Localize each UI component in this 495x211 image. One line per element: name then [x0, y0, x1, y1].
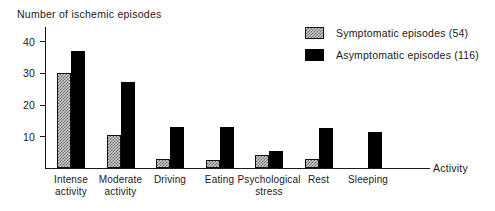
y-axis-line — [45, 27, 46, 169]
solid-black-swatch-icon — [305, 49, 324, 61]
chart-legend: Symptomatic episodes (54) Asymptomatic e… — [305, 24, 479, 68]
bar — [206, 160, 220, 168]
y-axis-tick-label: 30 — [23, 67, 35, 79]
checkered-swatch-icon — [305, 27, 324, 39]
y-axis-tick-label: 40 — [23, 35, 35, 47]
category-label-line: activity — [86, 186, 156, 198]
legend-item-label: Symptomatic episodes (54) — [336, 27, 468, 39]
legend-item-label: Asymptomatic episodes (116) — [336, 49, 479, 61]
bar — [368, 132, 382, 168]
y-axis-tick-label: 10 — [23, 131, 35, 143]
x-axis-category-label: Sleeping — [333, 174, 403, 186]
bar — [255, 155, 269, 168]
x-axis-line — [45, 168, 430, 169]
category-label-line: Sleeping — [333, 174, 403, 186]
y-axis-tick: 40 — [40, 41, 46, 42]
y-axis-tick-label: 20 — [23, 99, 35, 111]
y-axis-tick: 10 — [40, 136, 46, 137]
bar — [220, 127, 234, 168]
bar — [121, 82, 135, 168]
y-axis-tick: 20 — [40, 105, 46, 106]
y-axis-tick: 30 — [40, 73, 46, 74]
bar — [269, 151, 283, 168]
bar — [319, 128, 333, 168]
category-label-line: stress — [234, 186, 304, 198]
legend-item-asymptomatic: Asymptomatic episodes (116) — [305, 46, 479, 64]
bar — [107, 135, 121, 168]
bar — [305, 159, 319, 169]
bar — [71, 51, 85, 168]
x-axis-caption: Activity — [433, 162, 468, 174]
legend-item-symptomatic: Symptomatic episodes (54) — [305, 24, 479, 42]
bar — [170, 127, 184, 168]
ischemic-episodes-bar-chart: Number of ischemic episodes 10203040 Int… — [0, 0, 495, 211]
bar — [156, 159, 170, 169]
bar — [57, 73, 71, 168]
